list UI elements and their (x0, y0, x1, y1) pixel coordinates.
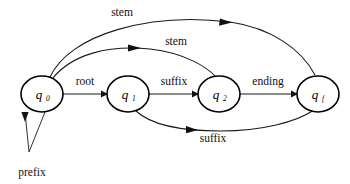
edge-root-label: root (76, 75, 95, 87)
edge-suffix-bottom: suffix (136, 110, 314, 144)
edge-suffix-mid: suffix (149, 75, 199, 98)
edge-prefix-label: prefix (18, 166, 46, 179)
edge-prefix-outgoing-path (29, 112, 45, 152)
node-qf-label: q (312, 87, 319, 102)
edge-prefix: prefix (18, 112, 46, 179)
node-q2-subscript: 2 (223, 94, 227, 103)
edge-suffix-bottom-path (136, 110, 314, 131)
edge-stem-top-label: stem (111, 6, 133, 18)
node-q0-label: q (36, 87, 43, 102)
edge-stem-inner-label: stem (165, 35, 187, 47)
edge-prefix-arrowhead (21, 112, 28, 122)
node-q1-subscript: 1 (132, 94, 136, 103)
edge-ending: ending (240, 75, 298, 98)
node-q0-subscript: 0 (46, 94, 50, 103)
node-q2-label: q (213, 87, 220, 102)
node-qf[interactable]: q f (297, 76, 339, 112)
node-q0[interactable]: q 0 (21, 76, 63, 112)
edge-stem-inner: stem (52, 35, 216, 79)
fsa-diagram: stem stem root suffix ending (0, 0, 350, 184)
edge-root: root (63, 75, 108, 98)
edge-stem-top-path (50, 20, 315, 77)
edge-suffix-bottom-arrowhead (186, 126, 198, 133)
edge-stem-inner-arrowhead (128, 44, 141, 51)
node-q1[interactable]: q 1 (107, 76, 149, 112)
fsa-canvas: stem stem root suffix ending (0, 0, 350, 184)
edge-suffix-mid-label: suffix (161, 75, 188, 87)
edge-suffix-bottom-label: suffix (200, 132, 227, 144)
node-q2[interactable]: q 2 (198, 76, 240, 112)
edge-stem-top-arrowhead (219, 19, 232, 26)
node-q1-label: q (122, 87, 129, 102)
edge-ending-label: ending (252, 75, 284, 88)
